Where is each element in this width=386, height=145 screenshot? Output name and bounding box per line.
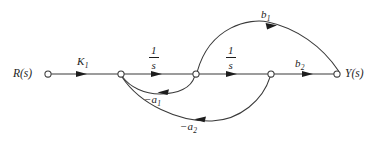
label-input-arg: (s) — [20, 67, 32, 79]
label-gain-k1: K1 — [77, 56, 88, 67]
label-integrator1-numerator: 1 — [149, 45, 159, 57]
label-integrator2-denominator: s — [226, 59, 236, 71]
label-gain-b2-base: b — [295, 57, 301, 69]
label-input-rs: R(s) — [13, 68, 32, 80]
arrow-integrator2 — [226, 71, 237, 77]
node-summing-junction[interactable] — [118, 71, 124, 77]
label-gain-b2-sub: 2 — [301, 63, 305, 72]
label-gain-integrator2: 1 s — [226, 45, 236, 71]
node-state-x1[interactable] — [268, 71, 274, 77]
node-output-y[interactable] — [334, 71, 340, 77]
label-gain-neg-a1: −a1 — [144, 94, 161, 105]
label-integrator1-denominator: s — [149, 59, 159, 71]
label-gain-k1-base: K — [77, 55, 84, 67]
label-gain-b1-sub: 1 — [267, 14, 271, 23]
label-integrator2-numerator: 1 — [226, 45, 236, 57]
label-input-main: R — [13, 67, 20, 79]
label-gain-b1-base: b — [261, 8, 267, 20]
label-gain-k1-sub: 1 — [85, 61, 89, 70]
arrow-integrator1 — [151, 71, 162, 77]
label-gain-b2: b2 — [295, 58, 304, 69]
fraction-bar — [149, 57, 159, 58]
node-input-r[interactable] — [45, 71, 51, 77]
label-gain-integrator1: 1 s — [149, 45, 159, 71]
edge-a1-group — [123, 77, 195, 94]
label-gain-b1: b1 — [261, 9, 270, 20]
label-output-arg: (s) — [351, 67, 363, 79]
fraction-bar — [226, 57, 236, 58]
node-state-x2[interactable] — [193, 71, 199, 77]
edge-a1-arc — [123, 77, 195, 94]
label-gain-a2-sub: 2 — [193, 126, 197, 135]
label-gain-neg-a2: −a2 — [180, 121, 197, 132]
signal-flow-graph-diagram: R(s) Y(s) K1 1 s 1 s b2 b1 −a1 −a2 — [0, 0, 386, 145]
label-gain-a1-sub: 1 — [157, 99, 161, 108]
arrow-k1 — [76, 71, 87, 77]
label-output-ys: Y(s) — [345, 68, 364, 80]
